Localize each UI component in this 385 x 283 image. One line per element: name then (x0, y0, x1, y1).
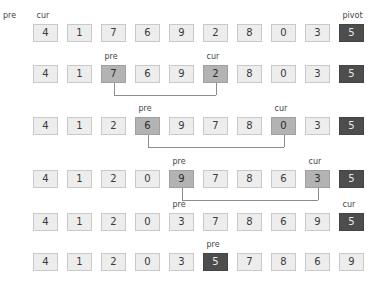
array-cell: 6 (305, 253, 330, 271)
array-cell: 1 (67, 24, 92, 42)
array-row: 4176928035precur (0, 65, 385, 83)
array-cell: 2 (101, 117, 126, 135)
array-cell-pivot: 5 (203, 253, 228, 271)
array-cell: 9 (169, 65, 194, 83)
array-cell: 0 (271, 65, 296, 83)
pointer-label-cur: cur (37, 11, 50, 20)
array-cell: 4 (33, 117, 58, 135)
array-cell: 8 (237, 24, 262, 42)
array-cell-highlighted: 3 (305, 170, 330, 188)
array-cell: 4 (33, 253, 58, 271)
array-cell: 1 (67, 170, 92, 188)
connector-segment (216, 83, 217, 95)
pointer-label-cur: cur (309, 157, 322, 166)
array-cell: 1 (67, 117, 92, 135)
array-cell-pivot: 5 (339, 24, 364, 42)
array-cell: 6 (135, 65, 160, 83)
connector-segment (114, 95, 216, 96)
array-cell: 8 (237, 65, 262, 83)
connector-segment (182, 188, 183, 200)
array-cell: 6 (271, 170, 296, 188)
pointer-label-pre: pre (3, 11, 16, 20)
array-cell: 3 (305, 117, 330, 135)
array-cell: 8 (237, 117, 262, 135)
array-cell: 4 (33, 170, 58, 188)
array-cell: 7 (203, 117, 228, 135)
array-cell: 2 (101, 253, 126, 271)
array-cell: 7 (237, 253, 262, 271)
array-cell: 9 (305, 213, 330, 231)
array-cell: 6 (271, 213, 296, 231)
pointer-label-pre: pre (173, 200, 186, 209)
array-cell-highlighted: 6 (135, 117, 160, 135)
pointer-label-pre: pre (173, 157, 186, 166)
array-cell: 3 (305, 24, 330, 42)
array-cell: 1 (67, 253, 92, 271)
pointer-label-pre: pre (207, 240, 220, 249)
array-cell-highlighted: 0 (271, 117, 296, 135)
array-cell: 1 (67, 213, 92, 231)
connector-segment (114, 83, 115, 95)
array-cell-pivot: 5 (339, 170, 364, 188)
array-row: pre4176928035curpivot (0, 24, 385, 42)
array-cell: 9 (339, 253, 364, 271)
array-cell: 7 (203, 170, 228, 188)
pointer-label-pre: pre (139, 104, 152, 113)
connector-segment (318, 188, 319, 200)
array-cell: 6 (135, 24, 160, 42)
partition-visualization: pre4176928035curpivot4176928035precur412… (0, 0, 385, 283)
array-row: 4120357869pre (0, 253, 385, 271)
array-row: 4126978035precur (0, 117, 385, 135)
array-cell: 2 (101, 170, 126, 188)
array-cell: 9 (169, 24, 194, 42)
array-cell-highlighted: 7 (101, 65, 126, 83)
array-row: 4120978635precur (0, 170, 385, 188)
array-cell: 3 (305, 65, 330, 83)
array-cell: 4 (33, 213, 58, 231)
array-row: 4120378695precur (0, 213, 385, 231)
array-cell: 3 (169, 253, 194, 271)
array-cell-highlighted: 9 (169, 170, 194, 188)
array-cell: 0 (135, 213, 160, 231)
array-cell-pivot: 5 (339, 213, 364, 231)
array-cell: 0 (135, 170, 160, 188)
array-cell-highlighted: 2 (203, 65, 228, 83)
pointer-label-pivot: pivot (343, 11, 363, 20)
array-cell: 7 (101, 24, 126, 42)
connector-segment (148, 135, 149, 147)
pointer-label-cur: cur (343, 200, 356, 209)
array-cell: 8 (271, 253, 296, 271)
pointer-label-cur: cur (275, 104, 288, 113)
array-cell-pivot: 5 (339, 117, 364, 135)
array-cell: 2 (101, 213, 126, 231)
array-cell: 0 (135, 253, 160, 271)
array-cell: 8 (237, 170, 262, 188)
pointer-label-cur: cur (207, 52, 220, 61)
connector-segment (148, 147, 284, 148)
array-cell: 2 (203, 24, 228, 42)
array-cell: 1 (67, 65, 92, 83)
array-cell: 8 (237, 213, 262, 231)
array-cell: 9 (169, 117, 194, 135)
connector-segment (182, 200, 318, 201)
pointer-label-pre: pre (105, 52, 118, 61)
array-cell-pivot: 5 (339, 65, 364, 83)
array-cell: 4 (33, 65, 58, 83)
connector-segment (284, 135, 285, 147)
array-cell: 7 (203, 213, 228, 231)
array-cell: 0 (271, 24, 296, 42)
array-cell: 4 (33, 24, 58, 42)
array-cell: 3 (169, 213, 194, 231)
